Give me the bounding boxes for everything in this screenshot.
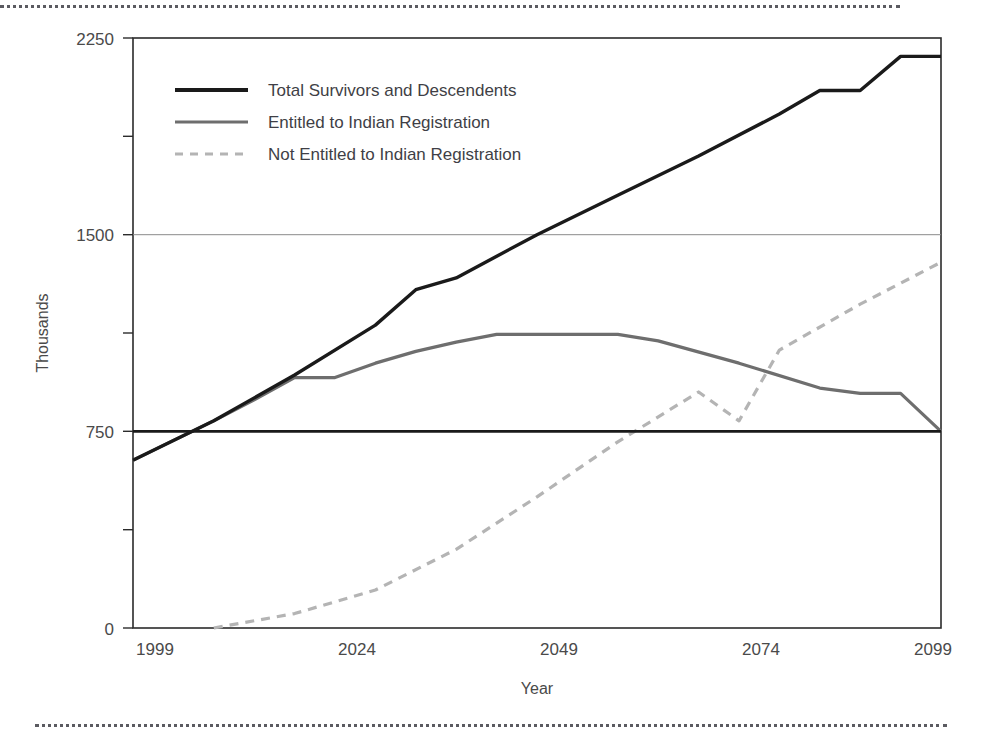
xtick-label-2074: 2074 bbox=[742, 640, 780, 659]
y-axis-tick-labels: 2250 1500 750 0 bbox=[76, 30, 114, 639]
legend-label-total: Total Survivors and Descendents bbox=[268, 81, 517, 100]
xtick-label-2049: 2049 bbox=[540, 640, 578, 659]
x-axis-title: Year bbox=[521, 680, 554, 697]
xtick-label-2099: 2099 bbox=[914, 640, 952, 659]
series-group bbox=[133, 56, 941, 628]
ytick-label-2250: 2250 bbox=[76, 30, 114, 49]
ytick-label-1500: 1500 bbox=[76, 226, 114, 245]
x-axis-tick-labels: 1999 2024 2049 2074 2099 bbox=[136, 640, 952, 659]
y-axis-title: Thousands bbox=[34, 293, 51, 372]
chart-legend: Total Survivors and Descendents Entitled… bbox=[175, 81, 521, 164]
series-line-total bbox=[133, 56, 941, 460]
legend-label-entitled: Entitled to Indian Registration bbox=[268, 113, 490, 132]
legend-label-not-entitled: Not Entitled to Indian Registration bbox=[268, 145, 521, 164]
bottom-dotted-rule bbox=[35, 724, 947, 727]
y-axis-ticks bbox=[123, 38, 133, 628]
xtick-label-1999: 1999 bbox=[136, 640, 174, 659]
chart-figure: 2250 1500 750 0 Thousands 1999 2024 2049… bbox=[0, 0, 984, 737]
series-line-not-entitled bbox=[214, 262, 941, 628]
xtick-label-2024: 2024 bbox=[338, 640, 376, 659]
line-chart: 2250 1500 750 0 Thousands 1999 2024 2049… bbox=[0, 0, 984, 737]
ytick-label-750: 750 bbox=[86, 423, 114, 442]
top-dotted-rule bbox=[0, 5, 900, 8]
ytick-label-0: 0 bbox=[105, 620, 114, 639]
